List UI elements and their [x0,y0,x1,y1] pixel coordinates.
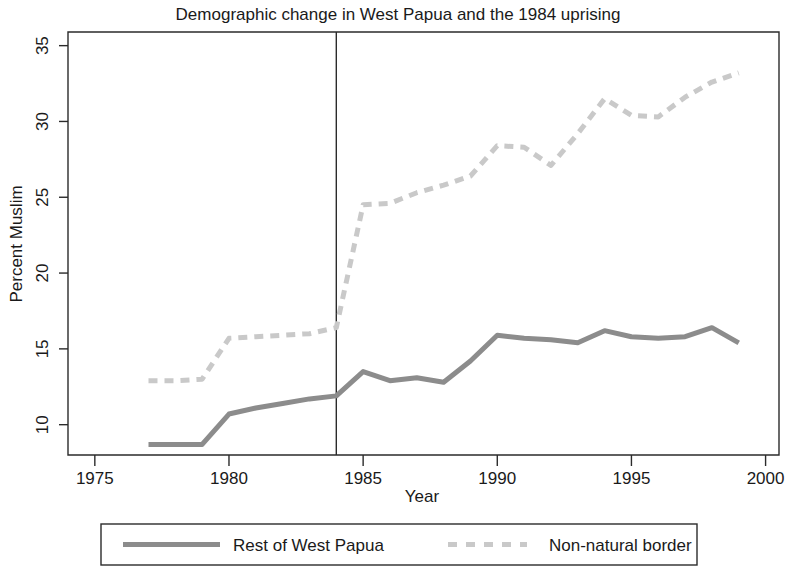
chart-series [148,73,738,444]
legend-label: Rest of West Papua [233,536,384,555]
x-tick-label: 1990 [478,469,516,488]
y-tick-label: 35 [33,36,52,55]
x-axis-ticks: 197519801985199019952000 [76,455,785,488]
y-tick-label: 10 [33,415,52,434]
y-tick-label: 20 [33,264,52,283]
x-tick-label: 1975 [76,469,114,488]
y-tick-label: 15 [33,339,52,358]
chart-figure: Demographic change in West Papua and the… [0,0,797,567]
x-tick-label: 1985 [344,469,382,488]
y-tick-label: 25 [33,188,52,207]
demographic-change-line-chart: Demographic change in West Papua and the… [0,0,797,567]
chart-legend: Rest of West PapuaNon-natural border [101,524,697,565]
y-tick-label: 30 [33,112,52,131]
series-non-natural-border [148,73,738,381]
x-tick-label: 2000 [747,469,785,488]
x-axis-label: Year [405,487,440,506]
y-axis-ticks: 101520253035 [33,36,68,434]
series-rest-of-west-papua [148,328,738,445]
x-tick-label: 1995 [613,469,651,488]
x-tick-label: 1980 [210,469,248,488]
plot-border [68,32,779,455]
chart-title: Demographic change in West Papua and the… [176,5,621,24]
legend-label: Non-natural border [549,536,692,555]
y-axis-label: Percent Muslim [7,185,26,302]
plot-frame [68,32,779,455]
